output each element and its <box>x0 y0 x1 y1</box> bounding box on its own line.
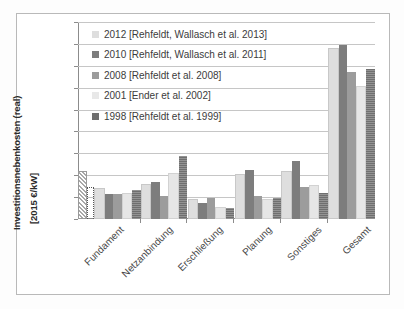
legend-item-label: 2012 [Rehfeldt, Wallasch et al. 2013] <box>104 29 267 40</box>
bar <box>281 171 292 219</box>
annotation-bar-dotted-outline <box>87 187 94 219</box>
legend-swatch-icon <box>92 51 99 58</box>
x-tick-mark <box>140 219 141 223</box>
bar <box>339 45 348 219</box>
legend-swatch-icon <box>92 72 99 79</box>
bar <box>273 198 282 219</box>
x-tick-mark <box>233 219 234 223</box>
legend-swatch-icon <box>92 92 99 99</box>
bar <box>122 193 133 219</box>
x-axis-label-gesamt: Gesamt <box>340 224 373 257</box>
y-axis-title-line-1: Investitionsnebenkosten (real) <box>11 96 22 230</box>
bar <box>132 190 141 219</box>
annotation-bar-diagonal-hatch <box>78 171 87 219</box>
bar <box>328 48 339 219</box>
legend-item-1[interactable]: 2010 [Rehfeldt, Wallasch et al. 2011] <box>92 45 324 66</box>
legend-item-3[interactable]: 2001 [Ender et al. 2002] <box>92 86 324 107</box>
legend-swatch-icon <box>92 113 99 120</box>
bar <box>113 194 122 219</box>
bar <box>141 184 152 219</box>
x-axis-label-erschließung: Erschließung <box>175 224 224 273</box>
bar <box>160 196 169 219</box>
legend-swatch-icon <box>92 31 99 38</box>
bar <box>151 182 160 219</box>
bar <box>347 72 356 219</box>
legend-item-label: 2010 [Rehfeldt, Wallasch et al. 2011] <box>104 49 266 60</box>
x-tick-mark <box>327 219 328 223</box>
bar <box>215 207 226 220</box>
x-tick-mark <box>280 219 281 223</box>
legend-item-label: 2008 [Rehfeldt et al. 2008] <box>104 70 221 81</box>
bar <box>300 187 309 219</box>
legend-item-4[interactable]: 1998 [Rehfeldt et al. 1999] <box>92 106 324 127</box>
y-axis-title: Investitionsnebenkosten (real) [2015 €/k… <box>11 18 51 230</box>
x-axis-label-netzanbindung: Netzanbindung <box>120 224 175 279</box>
bar <box>198 203 207 219</box>
bar <box>188 199 199 219</box>
bar <box>309 185 320 219</box>
legend-item-2[interactable]: 2008 [Rehfeldt et al. 2008] <box>92 65 324 86</box>
bar <box>319 193 328 219</box>
x-axis-label-planung: Planung <box>240 224 274 258</box>
bar <box>94 188 105 219</box>
bar <box>207 198 216 219</box>
x-axis-labels: FundamentNetzanbindungErschließungPlanun… <box>78 224 375 294</box>
bar <box>262 199 273 219</box>
bar-group-gesamt <box>328 22 375 219</box>
bar <box>179 156 188 219</box>
x-axis-label-sonstiges: Sonstiges <box>285 224 324 263</box>
chart-figure: Investitionsnebenkosten (real) [2015 €/k… <box>0 0 404 309</box>
bar <box>356 86 367 219</box>
legend-item-label: 2001 [Ender et al. 2002] <box>104 90 211 101</box>
y-tick-mark <box>74 219 78 220</box>
chart-legend: 2012 [Rehfeldt, Wallasch et al. 2013]201… <box>92 24 324 127</box>
legend-item-label: 1998 [Rehfeldt et al. 1999] <box>104 111 221 122</box>
x-axis-label-fundament: Fundament <box>82 224 126 268</box>
bar <box>168 173 179 219</box>
bar <box>292 161 301 219</box>
legend-item-0[interactable]: 2012 [Rehfeldt, Wallasch et al. 2013] <box>92 24 324 45</box>
x-tick-mark <box>186 219 187 223</box>
bar <box>235 174 246 219</box>
bar <box>254 196 263 219</box>
bar <box>105 194 114 219</box>
bar <box>366 69 375 219</box>
bar <box>226 208 235 219</box>
y-axis-title-line-2: [2015 €/kW] <box>28 173 39 224</box>
bar <box>245 170 254 219</box>
